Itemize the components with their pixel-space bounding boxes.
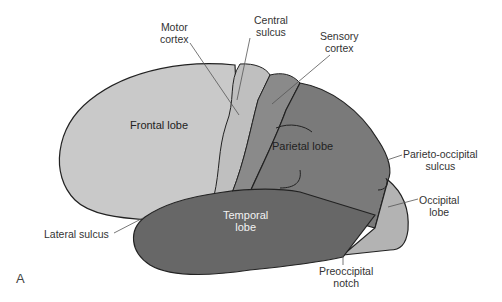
occipital-lobe-label-line1: Occipital (419, 194, 459, 206)
preoccipital-notch-label-line1: Preoccipital (319, 265, 373, 277)
occipital-lobe-label: Occipital lobe (419, 194, 459, 218)
sensory-cortex-label-line1: Sensory (320, 30, 359, 42)
temporal-lobe-label-line1: Temporal (223, 209, 268, 221)
panel-label: A (16, 271, 25, 286)
parieto-occipital-sulcus-label-line1: Parieto-occipital (403, 148, 478, 160)
sensory-cortex-label: Sensory cortex (320, 30, 359, 54)
preoccipital-notch-label: Preoccipital notch (319, 265, 373, 289)
sensory-cortex-label-line2: cortex (320, 42, 359, 54)
brain-lateral-view-diagram: Frontal lobe Parietal lobe Temporal lobe… (0, 0, 502, 302)
motor-cortex-label-line2: cortex (160, 33, 189, 45)
parieto-occipital-leader (387, 155, 402, 160)
occipital-lobe-label-line2: lobe (419, 206, 459, 218)
central-sulcus-label: Central sulcus (254, 14, 288, 38)
parieto-occipital-sulcus-label-line2: sulcus (403, 160, 478, 172)
temporal-lobe-label: Temporal lobe (223, 209, 268, 233)
parietal-lobe-label: Parietal lobe (272, 140, 333, 152)
frontal-lobe-label: Frontal lobe (130, 119, 188, 131)
central-sulcus-label-line1: Central (254, 14, 288, 26)
preoccipital-notch-label-line2: notch (319, 277, 373, 289)
temporal-lobe-label-line2: lobe (223, 221, 268, 233)
lateral-sulcus-label: Lateral sulcus (44, 228, 109, 240)
parieto-occipital-sulcus-label: Parieto-occipital sulcus (403, 148, 478, 172)
motor-cortex-label: Motor cortex (160, 21, 189, 45)
central-sulcus-label-line2: sulcus (254, 26, 288, 38)
motor-cortex-label-line1: Motor (160, 21, 189, 33)
